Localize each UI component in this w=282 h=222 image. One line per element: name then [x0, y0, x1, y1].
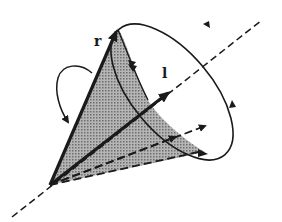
- label-l: l: [162, 66, 167, 80]
- cone-diagram: r l: [0, 0, 282, 222]
- label-r: r: [94, 34, 101, 48]
- ellipse-arrow-top: [203, 21, 210, 28]
- diagram-canvas: [0, 0, 282, 222]
- ellipse-arrow-bottom: [198, 149, 208, 157]
- ellipse-arrow-right: [229, 100, 236, 108]
